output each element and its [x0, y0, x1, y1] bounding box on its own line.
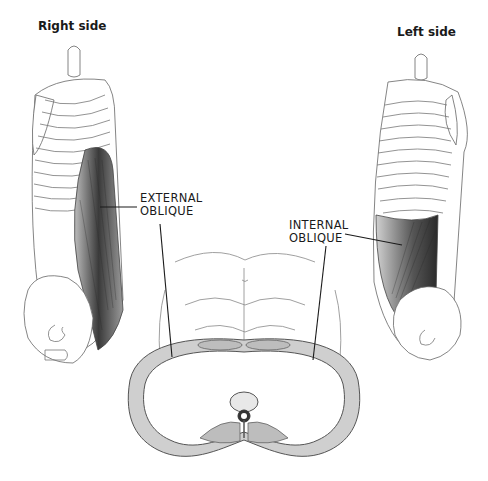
leader-lines: [100, 207, 402, 360]
right-side-label: Right side: [38, 20, 106, 34]
internal-oblique-leader-section: [313, 246, 326, 360]
external-oblique-line2: OBLIQUE: [140, 205, 203, 218]
external-oblique-label: EXTERNAL OBLIQUE: [140, 192, 203, 218]
internal-oblique-line2: OBLIQUE: [289, 232, 349, 245]
anatomy-figure: Right side Left side EXTERNAL OBLIQUE IN…: [0, 0, 488, 481]
abdominal-cross-section: [128, 339, 359, 457]
internal-oblique-label: INTERNAL OBLIQUE: [289, 219, 349, 245]
left-side-torso: [373, 54, 467, 360]
abdominal-muscles-illustration: [0, 0, 488, 481]
left-side-label: Left side: [397, 26, 456, 40]
external-oblique-leader-section: [160, 224, 172, 357]
right-side-torso: [24, 46, 123, 363]
